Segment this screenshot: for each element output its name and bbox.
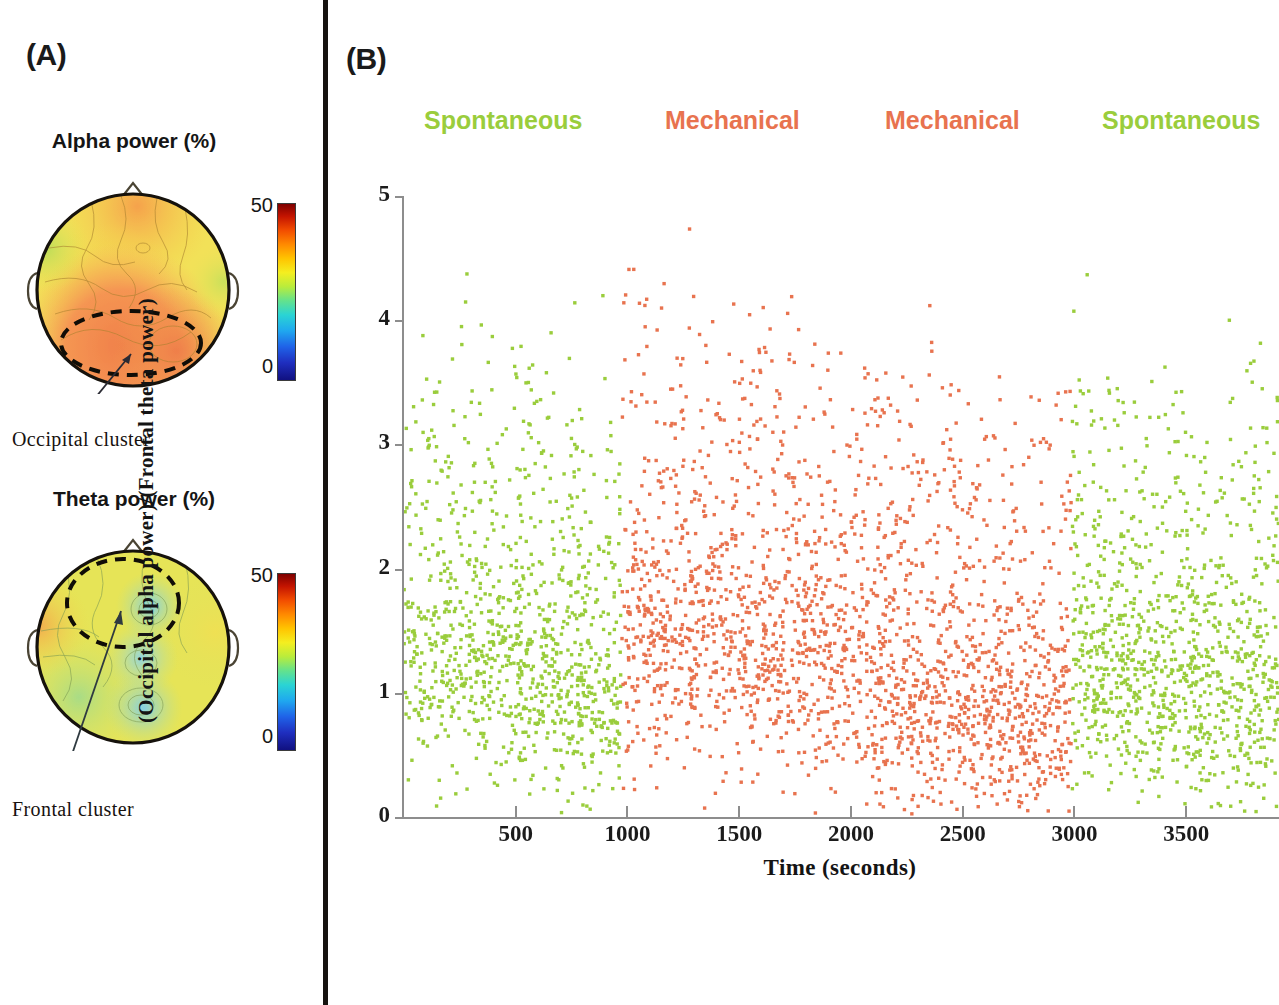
x-tick-label: 3000 bbox=[1019, 821, 1129, 847]
x-axis-title: Time (seconds) bbox=[640, 855, 1040, 881]
x-tick-mark bbox=[1073, 806, 1075, 818]
alpha-colorbar-max-label: 50 bbox=[239, 194, 273, 217]
theta-colorbar bbox=[277, 573, 296, 751]
theta-colorbar-max-label: 50 bbox=[239, 564, 273, 587]
y-tick-label: 4 bbox=[354, 305, 390, 331]
condition-label-mechanical-2: Mechanical bbox=[885, 106, 1020, 135]
y-tick-label: 5 bbox=[354, 181, 390, 207]
scatter-plot-area bbox=[404, 197, 1279, 818]
x-tick-mark bbox=[1185, 806, 1187, 818]
x-tick-label: 2000 bbox=[796, 821, 906, 847]
frontal-cluster-label: Frontal cluster bbox=[12, 798, 134, 821]
x-tick-mark bbox=[626, 806, 628, 818]
y-tick-label: 0 bbox=[354, 802, 390, 828]
y-tick-mark bbox=[395, 444, 403, 446]
condition-label-spontaneous-2: Spontaneous bbox=[1102, 106, 1260, 135]
condition-label-mechanical-1: Mechanical bbox=[665, 106, 800, 135]
figure-root: (A) Alpha power (%) bbox=[0, 0, 1279, 1005]
x-tick-mark bbox=[962, 806, 964, 818]
y-tick-mark bbox=[395, 569, 403, 571]
scatter-canvas bbox=[404, 197, 1279, 818]
panel-b-letter: (B) bbox=[346, 42, 386, 76]
x-axis-line bbox=[402, 817, 1279, 819]
x-tick-mark bbox=[515, 806, 517, 818]
panel-a-letter: (A) bbox=[26, 38, 66, 72]
y-tick-label: 3 bbox=[354, 429, 390, 455]
x-tick-label: 1000 bbox=[572, 821, 682, 847]
y-tick-label: 2 bbox=[354, 554, 390, 580]
condition-label-spontaneous-1: Spontaneous bbox=[424, 106, 582, 135]
y-tick-mark bbox=[395, 320, 403, 322]
alpha-colorbar bbox=[277, 203, 296, 381]
alpha-topomap-title: Alpha power (%) bbox=[14, 129, 254, 153]
x-tick-label: 500 bbox=[461, 821, 571, 847]
y-tick-mark bbox=[395, 196, 403, 198]
panel-divider bbox=[323, 0, 328, 1005]
y-tick-label: 1 bbox=[354, 678, 390, 704]
occipital-cluster-label: Occipital cluster bbox=[12, 428, 150, 451]
x-tick-label: 3500 bbox=[1131, 821, 1241, 847]
x-tick-mark bbox=[738, 806, 740, 818]
alpha-colorbar-min-label: 0 bbox=[239, 355, 273, 378]
y-tick-mark bbox=[395, 817, 403, 819]
theta-colorbar-min-label: 0 bbox=[239, 725, 273, 748]
y-axis-line bbox=[402, 196, 404, 819]
y-axis-title: (Occipital alpha power)/(Frontal theta p… bbox=[134, 231, 159, 791]
x-tick-label: 2500 bbox=[908, 821, 1018, 847]
x-tick-label: 1500 bbox=[684, 821, 794, 847]
y-tick-mark bbox=[395, 693, 403, 695]
x-tick-mark bbox=[850, 806, 852, 818]
